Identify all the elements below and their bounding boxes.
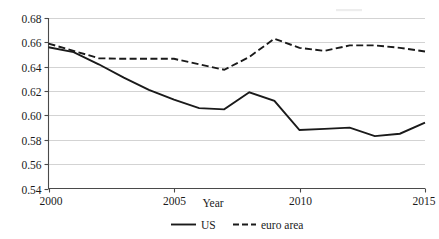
series-line-euro-area bbox=[49, 39, 426, 70]
y-tick-marks-group bbox=[45, 19, 49, 190]
data-series-group bbox=[49, 39, 426, 136]
x-tick-label: 2010 bbox=[289, 195, 312, 207]
y-tick-label: 0.62 bbox=[21, 86, 41, 98]
line-chart: 0.540.560.580.600.620.640.660.68 2000200… bbox=[0, 0, 439, 239]
gridlines-group bbox=[49, 19, 426, 165]
legend-label-us: US bbox=[201, 219, 216, 231]
x-axis-title: Year bbox=[202, 197, 223, 209]
scan-artifact bbox=[336, 9, 362, 11]
y-tick-label: 0.66 bbox=[21, 37, 41, 49]
x-tick-labels-group: 2000200520102015 bbox=[40, 195, 436, 207]
y-tick-label: 0.60 bbox=[21, 110, 41, 122]
chart-container: 0.540.560.580.600.620.640.660.68 2000200… bbox=[0, 0, 439, 239]
x-tick-label: 2005 bbox=[163, 195, 186, 207]
x-tick-label: 2000 bbox=[40, 195, 63, 207]
y-tick-label: 0.64 bbox=[21, 62, 41, 74]
legend-label-euro-area: euro area bbox=[261, 219, 303, 231]
x-tick-label: 2015 bbox=[413, 195, 436, 207]
x-tick-marks-group bbox=[50, 189, 426, 193]
y-tick-label: 0.58 bbox=[21, 135, 41, 147]
y-tick-labels-group: 0.540.560.580.600.620.640.660.68 bbox=[21, 13, 41, 196]
y-tick-label: 0.56 bbox=[21, 159, 41, 171]
chart-legend: US euro area bbox=[171, 219, 303, 231]
y-tick-label: 0.68 bbox=[21, 13, 41, 25]
